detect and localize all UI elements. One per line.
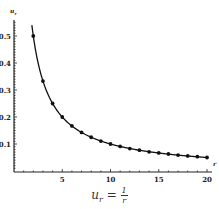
data-point [138,148,142,152]
x-tick-label: 15 [154,175,164,184]
chart-plot: 51015200.10.20.30.40.5 ur r [0,0,219,209]
y-axis-label: ur [10,7,17,16]
chart-caption: ur = 1r [0,186,219,205]
x-tick-label: 5 [60,175,65,184]
data-point [118,145,122,149]
y-tick-label: 0.2 [0,113,11,122]
data-point [99,139,103,143]
y-tick-label: 0.3 [0,86,11,95]
data-point [195,155,199,159]
x-tick-label: 10 [106,175,116,184]
data-point [41,79,45,83]
data-point [205,156,209,160]
x-axis-label: r [213,160,217,167]
data-point [157,151,161,155]
data-point [176,153,180,157]
y-tick-label: 0.5 [0,32,11,41]
data-point [109,142,113,146]
y-tick-label: 0.1 [0,140,11,149]
y-tick-label: 0.4 [0,59,11,68]
data-point [147,150,151,154]
data-point [89,135,93,139]
data-point [80,130,84,134]
data-curve [32,25,207,157]
data-point [186,154,190,158]
fraction: 1r [121,186,128,205]
axes [14,20,212,172]
data-point [167,152,171,156]
data-point [60,115,64,119]
data-point [128,147,132,151]
data-point [70,124,74,128]
data-point [51,102,55,106]
data-point [31,34,35,38]
x-tick-label: 20 [202,175,212,184]
